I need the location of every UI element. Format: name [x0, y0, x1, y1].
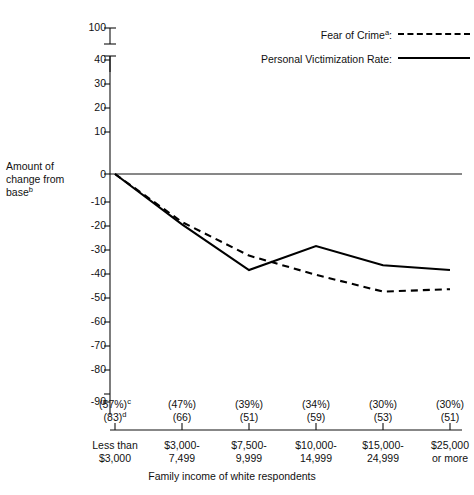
x-category-6-stats: (30%) (51): [407, 398, 474, 423]
series-line-personal-victimization-rate: [115, 174, 450, 270]
x-category-6-label: $25,000or more: [407, 439, 474, 464]
x-axis-title: Family income of white respondents: [0, 470, 464, 482]
y-axis-ticks: [104, 60, 110, 402]
series-line-fear-of-crime: [115, 174, 450, 292]
x-axis-ticks: [115, 423, 450, 430]
